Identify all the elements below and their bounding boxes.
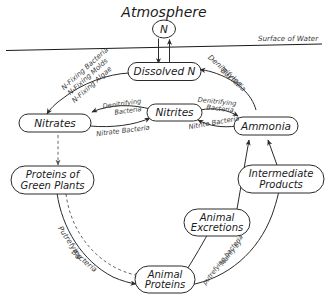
node-intermediate-products-line1: Intermediate bbox=[249, 168, 314, 179]
nitrogen-cycle-diagram: Atmosphere N Surface of Water Dissolved … bbox=[0, 0, 329, 304]
label-denitrifying-right-line2: Bacteria bbox=[206, 103, 234, 114]
node-ammonia: Ammonia bbox=[234, 117, 298, 135]
node-intermediate-products: Intermediate Products bbox=[238, 165, 324, 193]
node-animal-excretions-line2: Excretions bbox=[191, 222, 243, 233]
node-animal-proteins: Animal Proteins bbox=[135, 266, 195, 293]
node-animal-excretions: Animal Excretions bbox=[184, 209, 250, 236]
node-animal-proteins-line2: Proteins bbox=[145, 279, 186, 290]
node-ammonia-label: Ammonia bbox=[240, 120, 291, 132]
label-denitrifying-outer-line2: Bacteria bbox=[219, 66, 248, 94]
node-dissolved-n-label: Dissolved N bbox=[134, 65, 196, 77]
node-proteins-green-plants-line2: Green Plants bbox=[20, 180, 84, 191]
node-proteins-green-plants-line1: Proteins of bbox=[26, 169, 81, 180]
node-nitrites-label: Nitrites bbox=[155, 106, 194, 118]
label-putrefying-line2: Bacteria bbox=[70, 247, 100, 274]
label-mainly-by-line2: putrefying bacteria bbox=[200, 233, 245, 287]
node-intermediate-products-line2: Products bbox=[259, 179, 303, 190]
node-proteins-green-plants: Proteins of Green Plants bbox=[11, 166, 94, 194]
node-nitrates-label: Nitrates bbox=[34, 117, 76, 129]
water-surface-line bbox=[6, 44, 322, 51]
atmospheric-n-label: N bbox=[160, 23, 168, 35]
node-dissolved-n: Dissolved N bbox=[128, 63, 201, 81]
edge-intermediate-to-ammonia bbox=[268, 140, 277, 165]
node-nitrites: Nitrites bbox=[147, 104, 202, 121]
edge-greenplants-to-animalproteins-dashed bbox=[66, 194, 140, 276]
page-title: Atmosphere bbox=[120, 4, 206, 20]
surface-of-water-label: Surface of Water bbox=[258, 34, 319, 43]
node-animal-proteins-line1: Animal bbox=[147, 269, 183, 280]
node-animal-excretions-line1: Animal bbox=[199, 212, 235, 223]
node-nitrates: Nitrates bbox=[19, 114, 91, 132]
